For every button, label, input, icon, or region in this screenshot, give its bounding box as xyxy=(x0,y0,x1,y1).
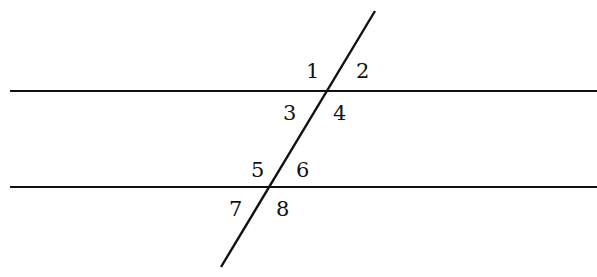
angle-label-5: 5 xyxy=(251,158,264,182)
angle-label-1: 1 xyxy=(306,59,319,83)
angle-label-2: 2 xyxy=(356,59,369,83)
angle-label-7: 7 xyxy=(229,197,242,221)
angle-label-6: 6 xyxy=(296,158,309,182)
angle-label-4: 4 xyxy=(333,101,346,125)
transversal-line xyxy=(221,11,375,267)
angle-label-3: 3 xyxy=(283,101,296,125)
angle-label-8: 8 xyxy=(276,197,289,221)
parallel-lines-diagram: 1 2 3 4 5 6 7 8 xyxy=(0,0,597,277)
